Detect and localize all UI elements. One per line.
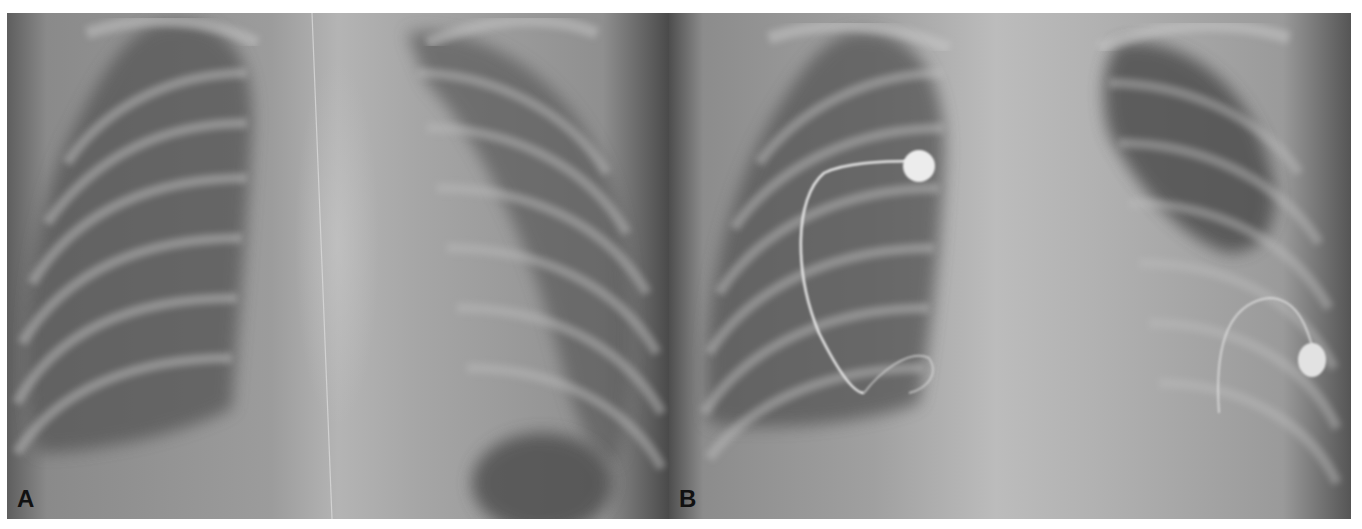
radiograph-figure: A [7, 13, 1351, 519]
panel-a-anatomy [7, 13, 669, 519]
gastric-bubble [472, 433, 612, 519]
clavicle-left [427, 21, 597, 43]
panel-label-a: A [17, 487, 34, 511]
pacemaker-generator-lower [1298, 343, 1326, 377]
pacemaker-generator-upper [903, 150, 935, 182]
panel-label-b: B [679, 487, 696, 511]
panel-b-anatomy [669, 13, 1351, 519]
line-artifact [312, 13, 332, 519]
panel-b-radiograph: B [669, 13, 1351, 519]
panel-a-radiograph: A [7, 13, 669, 519]
